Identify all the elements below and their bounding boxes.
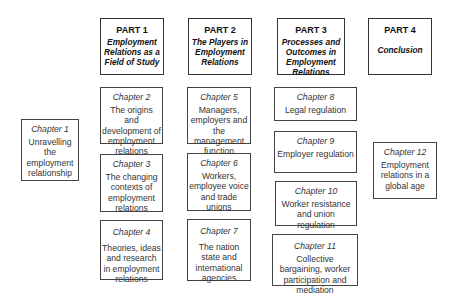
chapter-11-box: Chapter 11 Collective bargaining, worker…	[272, 234, 358, 286]
part-title: Conclusion	[369, 45, 431, 55]
part-2-box: PART 2 The Players in Employment Relatio…	[188, 18, 252, 75]
chapter-label: Chapter 4	[101, 227, 162, 237]
part-label: PART 1	[101, 24, 163, 36]
chapter-title: Worker resistance and union regulation	[276, 199, 356, 230]
chapter-label: Chapter 1	[22, 124, 78, 134]
chapter-label: Chapter 3	[101, 159, 162, 169]
chapter-4-box: Chapter 4 Theories, ideas and research i…	[100, 220, 163, 280]
part-1-box: PART 1 Employment Relations as a Field o…	[100, 18, 164, 75]
part-3-box: PART 3 Processes and Outcomes in Employm…	[277, 18, 345, 75]
chapter-title: Legal regulation	[275, 105, 356, 115]
chapter-3-box: Chapter 3 The changing contexts of emplo…	[100, 154, 163, 212]
chapter-6-box: Chapter 6 Workers, employee voice and tr…	[187, 153, 251, 211]
part-label: PART 2	[189, 24, 251, 36]
chapter-1-box: Chapter 1 Unravelling the employment rel…	[21, 119, 79, 181]
part-label: PART 3	[278, 24, 344, 36]
chapter-title: The nation state and international agenc…	[188, 242, 250, 283]
chapter-10-box: Chapter 10 Worker resistance and union r…	[275, 181, 357, 226]
chapter-title: Unravelling the employment relationship	[22, 137, 78, 178]
chapter-label: Chapter 6	[188, 158, 250, 168]
chapter-title: Managers, employers and the management f…	[188, 105, 250, 156]
chapter-title: Workers, employee voice and trade unions	[188, 171, 250, 212]
chapter-label: Chapter 12	[374, 147, 436, 157]
chapter-9-box: Chapter 9 Employer regulation	[274, 131, 357, 173]
chapter-12-box: Chapter 12 Employment relations in a glo…	[373, 142, 437, 199]
chapter-label: Chapter 9	[275, 136, 356, 146]
chapter-title: The changing contexts of employment rela…	[101, 172, 162, 213]
chapter-label: Chapter 11	[273, 241, 357, 251]
chapter-label: Chapter 7	[188, 226, 250, 236]
chapter-title: The origins and development of employmen…	[101, 105, 162, 156]
part-title: Employment Relations as a Field of Study	[101, 37, 163, 67]
chapter-label: Chapter 2	[101, 92, 162, 102]
chapter-label: Chapter 10	[276, 186, 356, 196]
part-title: Processes and Outcomes in Employment Rel…	[278, 37, 344, 77]
chapter-label: Chapter 8	[275, 92, 356, 102]
chapter-label: Chapter 5	[188, 92, 250, 102]
chapter-title: Collective bargaining, worker participat…	[273, 254, 357, 295]
chapter-title: Employer regulation	[275, 149, 356, 159]
chapter-2-box: Chapter 2 The origins and development of…	[100, 87, 163, 144]
part-4-box: PART 4 Conclusion	[368, 18, 432, 75]
chapter-5-box: Chapter 5 Managers, employers and the ma…	[187, 87, 251, 144]
part-label: PART 4	[369, 24, 431, 36]
chapter-7-box: Chapter 7 The nation state and internati…	[187, 219, 251, 281]
part-title: The Players in Employment Relations	[189, 37, 251, 67]
chapter-title: Employment relations in a global age	[374, 160, 436, 191]
chapter-title: Theories, ideas and research in employme…	[101, 243, 162, 284]
chapter-8-box: Chapter 8 Legal regulation	[274, 87, 357, 121]
